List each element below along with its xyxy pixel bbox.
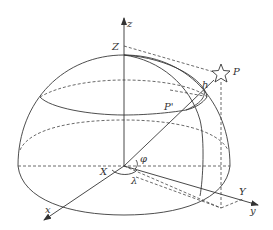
zenith-to-star-dashed [124, 46, 214, 72]
altitude-label: h [202, 79, 208, 90]
z-axis-label: z [126, 18, 133, 29]
ground-projection-dashed-1 [124, 166, 221, 208]
latitude-circle-front [40, 97, 207, 115]
y-point-label: Y [239, 186, 247, 197]
latitude-circle-back [40, 80, 207, 97]
zenith-label: Z [111, 41, 120, 52]
y-axis [124, 166, 258, 205]
phi-arc [135, 160, 137, 169]
lambda-label: λ [130, 175, 137, 186]
h-dashed [170, 90, 204, 96]
ground-projection-dashed-3 [221, 199, 243, 208]
star-label: P [232, 66, 240, 77]
lambda-arc [112, 170, 137, 175]
projection-label: P' [163, 101, 173, 112]
x-axis-label: x [45, 204, 51, 215]
x-point-label: X [99, 166, 108, 177]
y-axis-label: y [249, 205, 256, 216]
phi-label: φ [140, 153, 147, 164]
hemisphere-diagram: z Z P h P' φ λ X x Y y [0, 0, 273, 230]
star-icon [212, 64, 230, 82]
meridian-arc-2 [124, 55, 207, 97]
